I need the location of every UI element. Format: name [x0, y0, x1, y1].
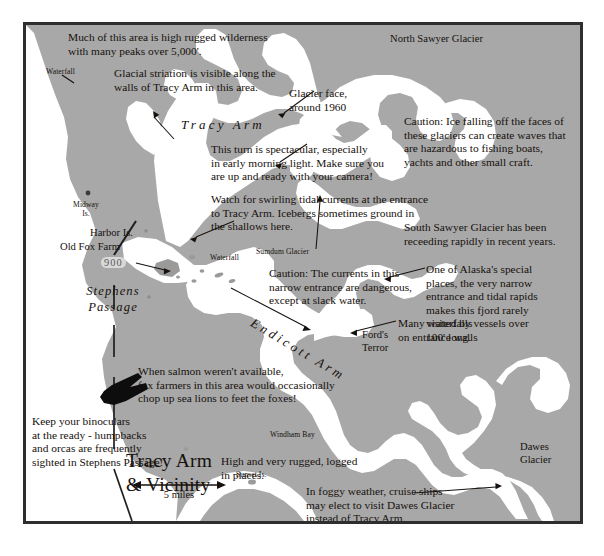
scale-bar-label: 5 miles [138, 489, 220, 500]
note-foggy: In foggy weather, cruise ships may elect… [306, 485, 521, 524]
map-frame: Much of this area is high rugged wildern… [23, 22, 583, 524]
place-label-harbor-is: Harbor Is. [90, 227, 133, 240]
place-label-dawes-glacier: Dawes Glacier [520, 441, 578, 466]
small-label-windham-bay: Windham Bay [270, 430, 315, 439]
small-label-midway-is: Midway Is. [68, 200, 104, 218]
place-label-north-sawyer-glacier: North Sawyer Glacier [390, 33, 483, 46]
note-wilderness: Much of this area is high rugged wildern… [68, 31, 323, 58]
small-label-sumdum-glacier: Sumdum Glacier [256, 247, 309, 256]
harbor-islet-4 [176, 275, 180, 278]
small-label-waterfall-center: Waterfall [210, 253, 239, 262]
note-south-sawyer: South Sawyer Glacier has been receeding … [404, 221, 583, 248]
water-name-tracy-arm: Tracy Arm [181, 117, 265, 133]
islet-north [144, 229, 147, 232]
depth-sounding-900: 900 [101, 257, 126, 268]
map-page: Much of this area is high rugged wildern… [0, 0, 604, 556]
small-label-waterfall-nw: Waterfall [46, 67, 75, 76]
place-label-old-fox-farm: Old Fox Farm [60, 241, 120, 254]
note-glacier-face: Glacier face, around 1960 [289, 87, 389, 114]
harbor-islet-1 [189, 255, 195, 259]
midway-island-dot [86, 191, 91, 196]
place-label-fords-terror: Ford's Terror [362, 329, 410, 354]
water-name-stephens-passage: Stephens Passage [48, 283, 178, 315]
note-salmon: When salmon weren't available, fox farme… [138, 365, 414, 406]
harbor-islet-2 [200, 269, 205, 273]
note-turn: This turn is spectacular, especially in … [211, 143, 441, 184]
harbor-islet-3 [191, 279, 196, 283]
note-waterfalls: Many waterfalls on entrance walls [398, 317, 548, 344]
